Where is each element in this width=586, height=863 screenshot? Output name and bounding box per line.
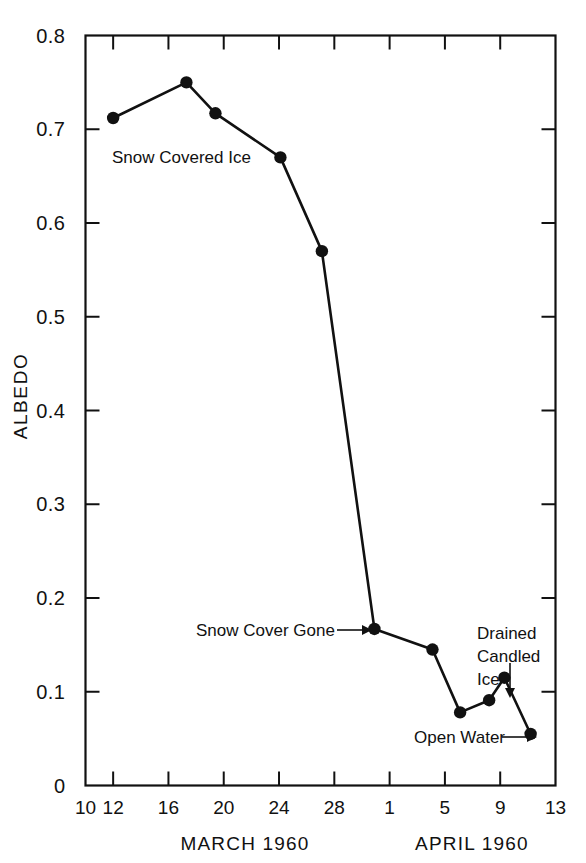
annotation-drained-candled-ice-line1: Drained <box>477 624 537 643</box>
x-tick-label-1: 1 <box>384 797 395 818</box>
annotation-snow-cover-gone-label: Snow Cover Gone <box>196 621 335 640</box>
x-axis-ticks-top <box>113 36 500 50</box>
data-point <box>483 694 495 706</box>
y-tick-label-0.3: 0.3 <box>36 493 65 515</box>
annotation-open-water-label: Open Water <box>414 728 505 747</box>
annotation-snow-covered-ice: Snow Covered Ice <box>112 148 251 167</box>
series-albedo <box>107 76 537 740</box>
x-tick-label-9: 9 <box>495 797 506 818</box>
y-tick-label-0.1: 0.1 <box>36 681 65 703</box>
y-axis-title: ALBEDO <box>10 353 31 440</box>
data-point <box>426 643 438 655</box>
annotation-snow-cover-gone: Snow Cover Gone <box>196 621 372 640</box>
data-point <box>180 76 192 88</box>
y-tick-label-0.6: 0.6 <box>36 212 65 234</box>
x-axis-title-april: APRIL 1960 <box>415 833 529 854</box>
data-point <box>209 107 221 119</box>
series-markers-albedo <box>107 76 537 740</box>
x-axis-tick-labels: 10121620242815913 <box>75 797 566 818</box>
y-tick-label-0.4: 0.4 <box>36 400 65 422</box>
data-point <box>107 112 119 124</box>
x-axis-ticks-bottom <box>113 772 500 786</box>
x-tick-label-5: 5 <box>440 797 451 818</box>
y-axis-ticks-right <box>542 129 556 692</box>
albedo-chart-figure: 00.10.20.30.40.50.60.70.8 10121620242815… <box>0 0 586 863</box>
y-tick-label-0.7: 0.7 <box>36 118 65 140</box>
y-tick-label-0.2: 0.2 <box>36 587 65 609</box>
x-tick-label-16: 16 <box>158 797 179 818</box>
annotation-snow-covered-ice-label: Snow Covered Ice <box>112 148 251 167</box>
x-tick-label-10: 10 <box>75 797 96 818</box>
x-tick-label-12: 12 <box>103 797 124 818</box>
y-tick-label-0: 0 <box>54 775 66 797</box>
x-axis-title-march: MARCH 1960 <box>180 833 309 854</box>
data-point <box>274 151 286 163</box>
data-point <box>498 671 510 683</box>
x-tick-label-20: 20 <box>213 797 234 818</box>
x-tick-label-24: 24 <box>268 797 290 818</box>
data-point <box>454 706 466 718</box>
annotation-drained-candled-ice-line2: Candled <box>477 647 540 666</box>
data-point <box>368 623 380 635</box>
data-point <box>316 245 328 257</box>
x-tick-label-28: 28 <box>324 797 345 818</box>
annotation-drained-candled-ice-line3: Ice <box>477 670 500 689</box>
y-tick-label-0.5: 0.5 <box>36 306 65 328</box>
x-tick-label-13: 13 <box>545 797 566 818</box>
y-tick-label-0.8: 0.8 <box>36 25 65 47</box>
y-axis-ticks-left <box>86 129 100 692</box>
chart-svg: 00.10.20.30.40.50.60.70.8 10121620242815… <box>0 0 586 863</box>
annotation-open-water: Open Water <box>414 728 537 747</box>
y-axis-tick-labels: 00.10.20.30.40.50.60.70.8 <box>36 25 65 797</box>
